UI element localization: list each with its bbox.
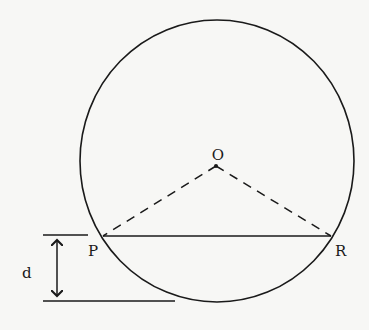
label-d: d <box>22 264 32 282</box>
label-o: O <box>212 146 224 164</box>
circle-chord-diagram: O P R d <box>0 0 369 330</box>
label-p: P <box>88 242 98 260</box>
radius-op <box>103 166 216 236</box>
label-r: R <box>335 242 347 260</box>
center-point <box>214 164 218 168</box>
radius-or <box>216 166 331 236</box>
